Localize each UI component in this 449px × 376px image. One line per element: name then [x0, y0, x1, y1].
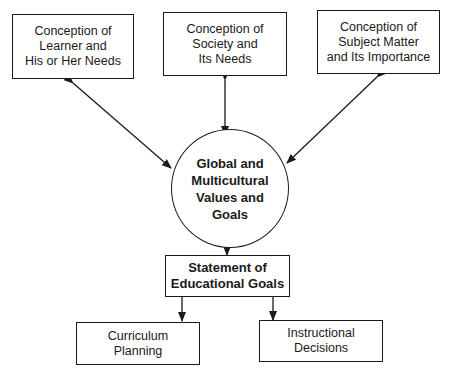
node-learner-needs: Conception of Learner and His or Her Nee…	[12, 14, 134, 79]
node-label: Conception of Learner and His or Her Nee…	[25, 24, 121, 69]
edge-global-learner	[73, 83, 171, 168]
node-label: Curriculum Planning	[108, 329, 168, 359]
node-label: Instructional Decisions	[287, 326, 354, 356]
node-curriculum-planning: Curriculum Planning	[76, 322, 200, 365]
node-label: Conception of Subject Matter and Its Imp…	[327, 20, 431, 65]
node-global-values: Global and Multicultural Values and Goal…	[171, 129, 289, 248]
edge-global-subject	[287, 77, 377, 163]
node-label: Conception of Society and Its Needs	[186, 22, 263, 67]
node-instructional-decisions: Instructional Decisions	[259, 320, 383, 362]
node-subject-matter: Conception of Subject Matter and Its Imp…	[317, 10, 440, 74]
node-educational-goals: Statement of Educational Goals	[165, 255, 290, 297]
node-society-needs: Conception of Society and Its Needs	[163, 12, 287, 76]
node-label: Statement of Educational Goals	[171, 260, 284, 292]
node-label: Global and Multicultural Values and Goal…	[191, 155, 268, 223]
